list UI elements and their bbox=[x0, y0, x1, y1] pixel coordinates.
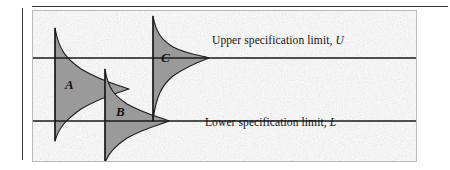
lower-specification-limit-label: Lower specification limit, L bbox=[205, 116, 336, 128]
illustration-panel bbox=[32, 10, 417, 162]
upper-limit-symbol: U bbox=[335, 34, 343, 46]
curve-label-b: B bbox=[116, 104, 125, 120]
figure-root: Upper specification limit, U Lower speci… bbox=[0, 0, 450, 170]
upper-specification-limit-label: Upper specification limit, U bbox=[212, 34, 344, 46]
lower-limit-symbol: L bbox=[330, 116, 337, 128]
curve-label-a: A bbox=[65, 77, 74, 93]
lower-limit-text: Lower specification limit, bbox=[205, 116, 327, 128]
curve-C bbox=[153, 16, 209, 121]
upper-limit-text: Upper specification limit, bbox=[212, 34, 332, 46]
curve-C-area bbox=[153, 16, 209, 121]
curve-label-c: C bbox=[161, 50, 170, 66]
page-margin-rule bbox=[22, 8, 23, 160]
top-horizontal-rule bbox=[32, 6, 448, 7]
